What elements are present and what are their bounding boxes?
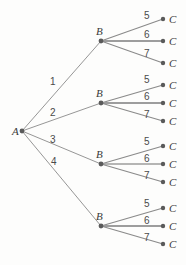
edge-b2-c6 <box>101 103 163 121</box>
edge-label-b4-c10: 5 <box>144 199 150 209</box>
node-b3-dot <box>99 162 104 167</box>
level2-edges-group3 <box>101 146 163 182</box>
node-c4-dot <box>161 83 165 87</box>
node-c9-dot <box>161 180 165 184</box>
edge-label-b4-c12: 7 <box>144 233 150 243</box>
node-label-a: A <box>12 126 19 137</box>
node-label-c8: C <box>169 159 176 170</box>
node-c2-dot <box>161 39 165 43</box>
edge-b3-c9 <box>101 164 163 182</box>
node-c12-dot <box>161 242 165 246</box>
edge-b3-c7 <box>101 146 163 164</box>
node-b2-dot <box>99 101 104 106</box>
node-label-c7: C <box>169 141 176 152</box>
edge-label-b2-c5: 6 <box>144 92 150 102</box>
edge-label-b3-c7: 5 <box>144 137 150 147</box>
node-c3-dot <box>161 61 165 65</box>
node-label-c2: C <box>169 36 176 47</box>
node-b1-dot <box>99 39 104 44</box>
node-label-c1: C <box>169 14 176 25</box>
node-label-c12: C <box>169 239 176 250</box>
node-label-c10: C <box>169 203 176 214</box>
node-label-b4: B <box>96 211 103 222</box>
node-label-c5: C <box>169 98 176 109</box>
node-label-c9: C <box>169 177 176 188</box>
node-c8-dot <box>161 162 165 166</box>
node-c5-dot <box>161 101 165 105</box>
edge-label-2: 2 <box>50 108 56 118</box>
level2-edges-group2 <box>101 85 163 121</box>
node-label-b2: B <box>96 88 103 99</box>
edge-b1-c3 <box>101 41 163 63</box>
edge-label-b1-c1: 5 <box>144 11 150 21</box>
edge-label-b2-c4: 5 <box>144 75 150 85</box>
node-c10-dot <box>161 206 165 210</box>
edge-label-b1-c2: 6 <box>144 30 150 40</box>
edge-label-3: 3 <box>50 135 56 145</box>
node-label-b3: B <box>96 149 103 160</box>
node-a-dot <box>20 129 25 134</box>
level2-edges-group4 <box>101 208 163 244</box>
edge-a-b3 <box>22 131 101 164</box>
tree-edges-svg <box>0 0 186 265</box>
edge-label-1: 1 <box>50 77 56 87</box>
edge-a-b4 <box>22 131 101 226</box>
node-b4-dot <box>99 224 104 229</box>
node-c7-dot <box>161 144 165 148</box>
edge-label-b3-c9: 7 <box>144 171 150 181</box>
edge-label-4: 4 <box>51 157 57 167</box>
node-label-b1: B <box>96 26 103 37</box>
node-label-c4: C <box>169 80 176 91</box>
edge-label-b1-c3: 7 <box>144 49 150 59</box>
node-c11-dot <box>161 224 165 228</box>
edge-label-b3-c8: 6 <box>144 154 150 164</box>
node-label-c11: C <box>169 221 176 232</box>
node-c1-dot <box>161 17 165 21</box>
edge-label-b2-c6: 7 <box>144 110 150 120</box>
edge-b4-c10 <box>101 208 163 226</box>
edge-label-b4-c11: 6 <box>144 216 150 226</box>
level1-edges <box>22 41 101 226</box>
node-label-c3: C <box>169 58 176 69</box>
edge-b2-c4 <box>101 85 163 103</box>
edge-a-b1 <box>22 41 101 131</box>
tree-diagram: A B B B B 1 2 3 4 5 6 7 C C C 5 6 7 C C … <box>0 0 186 265</box>
node-c6-dot <box>161 119 165 123</box>
edge-b1-c1 <box>101 19 163 41</box>
edge-b4-c12 <box>101 226 163 244</box>
node-label-c6: C <box>169 116 176 127</box>
level2-edges-group1 <box>101 19 163 63</box>
